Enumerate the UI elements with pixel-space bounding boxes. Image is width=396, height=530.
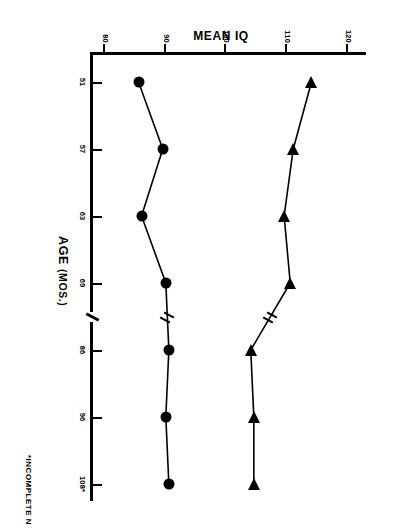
plot-area: 1201101009080515763698696108* MEAN IQ AG…	[0, 0, 396, 530]
rotated-plot-stage: 1201101009080515763698696108* MEAN IQ AG…	[0, 0, 396, 530]
figure-canvas: 1201101009080515763698696108* MEAN IQ AG…	[0, 0, 396, 530]
series-line	[251, 82, 312, 484]
series-line	[139, 82, 169, 484]
series-line-layer	[0, 0, 396, 530]
